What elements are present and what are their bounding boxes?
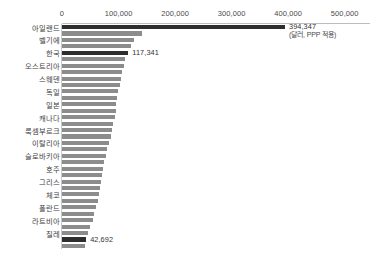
- x-axis-tick-label: 400,000: [274, 9, 302, 18]
- x-axis-tick-label: 100,000: [105, 9, 133, 18]
- bar: [62, 31, 142, 35]
- plot-area: 아일랜드394,347(달러, PPP 적용)벨기에한국117,341오스트리아…: [0, 24, 374, 256]
- bar-highlighted: [62, 237, 86, 241]
- bar: [62, 77, 121, 81]
- x-axis-tick-label: 0: [60, 9, 64, 18]
- bar: [62, 212, 94, 216]
- bar: [62, 89, 118, 93]
- x-axis: 0100,000200,000300,000400,000500,000: [0, 0, 374, 24]
- bar: [62, 173, 102, 177]
- bar: [62, 180, 101, 184]
- bar: [62, 57, 125, 61]
- bar: [62, 160, 104, 164]
- x-axis-tick-label: 500,000: [331, 9, 359, 18]
- bar: [62, 64, 124, 68]
- bar: [62, 83, 120, 87]
- bar: [62, 70, 122, 74]
- bar: [62, 96, 117, 100]
- bar: [62, 38, 134, 42]
- bar: [62, 115, 115, 119]
- bar: [62, 154, 106, 158]
- bar: [62, 244, 85, 248]
- bar: [62, 109, 116, 113]
- bar: [62, 167, 103, 171]
- bar-row: [0, 243, 374, 249]
- x-axis-tick-label: 300,000: [218, 9, 246, 18]
- bar: [62, 199, 98, 203]
- bar-track: [62, 243, 85, 249]
- bar: [62, 134, 111, 138]
- bar: [62, 192, 99, 196]
- bar: [62, 218, 93, 222]
- bar: [62, 141, 109, 145]
- bar: [62, 44, 131, 48]
- bar: [62, 186, 100, 190]
- bar: [62, 128, 112, 132]
- bar: [62, 122, 113, 126]
- horizontal-bar-chart: 0100,000200,000300,000400,000500,000 아일랜…: [0, 0, 374, 261]
- bar-highlighted: [62, 25, 285, 29]
- bar-highlighted: [62, 51, 128, 55]
- bar: [62, 147, 107, 151]
- bar: [62, 231, 88, 235]
- bar: [62, 205, 96, 209]
- x-axis-tick-label: 200,000: [161, 9, 189, 18]
- bar: [62, 225, 90, 229]
- bar: [62, 102, 116, 106]
